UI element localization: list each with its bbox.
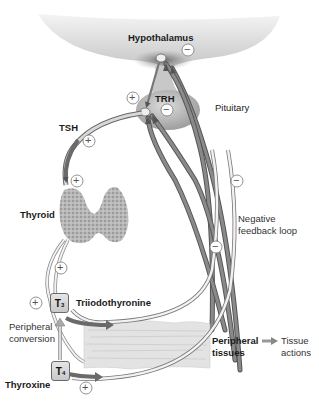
minus-sign-feedback-lower: − [212,241,218,252]
thyroid-gland-shape [60,187,129,243]
label-peripheral-tissues-1: Peripheral [212,335,258,346]
plus-sign-thyroid: + [73,175,79,186]
label-peripheral-tissues-2: tissues [212,347,245,358]
minus-sign-pituitary: − [163,104,169,115]
label-negative-feedback-1: Negative [238,213,276,224]
label-negative-feedback-2: feedback loop [238,225,297,236]
label-peripheral-conversion-1: Peripheral [9,321,52,332]
label-hypothalamus: Hypothalamus [128,32,193,43]
t4-box: T4 [51,361,70,381]
thyroid-axis-diagram: − + − + + − − + + + Hypothalamus TRH Pit… [0,0,319,402]
plus-sign-t4-tissue: + [82,382,88,393]
plus-sign-t3-secretion: + [57,262,63,273]
plus-sign-trh: + [129,92,135,103]
minus-sign-hypothalamus: − [184,44,190,55]
label-thyroxine: Thyroxine [5,379,50,390]
t3-box: T3 [50,293,69,313]
label-peripheral-conversion-2: conversion [9,333,55,344]
t3-subscript: 3 [61,302,64,308]
label-tissue-actions-2: actions [281,347,311,358]
label-thyroid: Thyroid [20,209,55,220]
label-trh: TRH [155,93,175,104]
minus-sign-feedback-upper: − [233,175,239,186]
label-pituitary: Pituitary [215,102,249,113]
label-triiodothyronine: Triiodothyronine [76,297,151,308]
t4-subscript: 4 [62,370,65,376]
label-tissue-actions-1: Tissue [281,335,309,346]
label-tsh: TSH [59,122,78,133]
plus-sign-conversion: + [32,297,38,308]
plus-sign-tsh: + [85,135,91,146]
